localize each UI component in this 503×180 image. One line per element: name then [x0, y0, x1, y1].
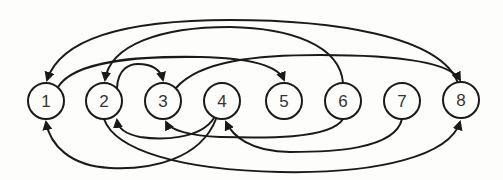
edge-8-to-1 [47, 20, 458, 83]
graph-node-6: 6 [325, 83, 361, 119]
graph-node-3: 3 [145, 83, 181, 119]
nodes: 1 2 3 4 5 6 7 8 [28, 82, 479, 119]
node-label: 6 [338, 92, 347, 111]
graph-node-7: 7 [384, 83, 420, 119]
node-label: 1 [41, 92, 50, 111]
graph-node-8: 8 [443, 82, 479, 118]
edge-4-to-1 [46, 119, 216, 168]
edge-7-to-4 [226, 119, 402, 152]
node-label: 8 [456, 91, 465, 110]
graph-canvas: 1 2 3 4 5 6 7 8 [0, 0, 503, 180]
node-label: 5 [279, 92, 288, 111]
graph-node-2: 2 [86, 83, 122, 119]
graph-node-5: 5 [266, 83, 302, 119]
node-label: 2 [99, 92, 108, 111]
node-label: 7 [397, 92, 406, 111]
edge-1-to-5 [58, 57, 284, 87]
edge-6-to-3 [166, 119, 343, 138]
graph-node-4: 4 [204, 83, 240, 119]
graph-node-1: 1 [28, 83, 64, 119]
node-label: 3 [158, 92, 167, 111]
node-label: 4 [217, 92, 226, 111]
